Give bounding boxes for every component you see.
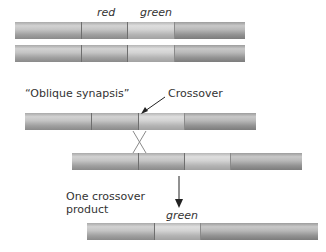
- green-gene-segment: [155, 223, 201, 240]
- crossover-pointer-arrow-icon: [141, 97, 165, 114]
- green-gene-label-bottom: green: [166, 210, 198, 222]
- left-flank-segment: [87, 223, 155, 240]
- connector-lines: [0, 0, 326, 252]
- right-flank-segment: [201, 223, 318, 240]
- crossover-x-icon: [133, 131, 146, 153]
- crossover-product: [87, 223, 318, 240]
- one-crossover-product-label-line2: product: [66, 204, 108, 216]
- down-arrow-icon: [175, 176, 183, 208]
- one-crossover-product-label-line1: One crossover: [66, 191, 145, 203]
